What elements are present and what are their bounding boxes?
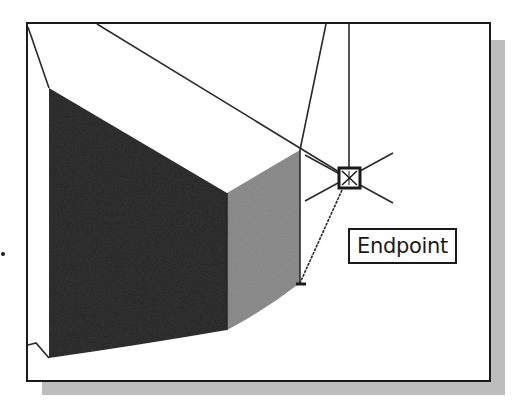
- snap-tooltip: Endpoint: [348, 228, 457, 264]
- endpoint-snap-box-icon: [339, 168, 360, 188]
- edge-line: [300, 190, 342, 283]
- edge-line: [28, 27, 49, 88]
- edge-line: [28, 343, 49, 358]
- figure-stage: Endpoint: [0, 0, 524, 412]
- edge-line: [300, 24, 326, 150]
- dark-face: [49, 88, 227, 358]
- cad-drawing: [0, 0, 524, 412]
- light-face: [227, 150, 300, 330]
